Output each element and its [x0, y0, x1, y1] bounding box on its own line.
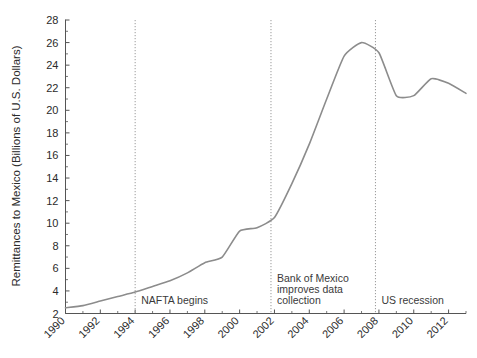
y-tick-24: 24	[46, 59, 58, 71]
y-axis-title-text: Remittances to Mexico (Billions of U.S. …	[10, 45, 22, 286]
y-tick-16: 16	[46, 149, 58, 161]
y-tick-28: 28	[46, 14, 58, 26]
y-axis-title: Remittances to Mexico (Billions of U.S. …	[10, 45, 22, 286]
annotation-us-recession-line-1: US recession	[381, 294, 444, 306]
y-tick-14: 14	[46, 172, 58, 184]
annotation-us-recession: US recession	[381, 294, 444, 306]
annotation-bank-of-mexico-line-3: collection	[277, 294, 321, 306]
y-tick-10: 10	[46, 217, 58, 229]
y-tick-4: 4	[52, 285, 58, 297]
y-tick-20: 20	[46, 104, 58, 116]
annotation-nafta-begins-line-1: NAFTA begins	[141, 294, 208, 306]
chart-svg: 246810121416182022242628 199019921994199…	[0, 0, 477, 358]
y-tick-22: 22	[46, 82, 58, 94]
remittances-chart-figure: 246810121416182022242628 199019921994199…	[0, 0, 477, 358]
y-tick-18: 18	[46, 127, 58, 139]
y-tick-8: 8	[52, 240, 58, 252]
y-tick-12: 12	[46, 195, 58, 207]
y-tick-6: 6	[52, 262, 58, 274]
annotation-nafta-begins: NAFTA begins	[141, 294, 208, 306]
y-tick-26: 26	[46, 37, 58, 49]
